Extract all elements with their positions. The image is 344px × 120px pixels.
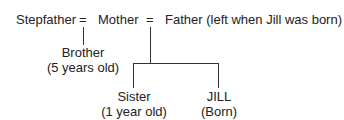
mother-label: Mother — [98, 12, 138, 27]
jill-line — [218, 63, 219, 88]
brother-label: Brother — [62, 45, 105, 60]
stepfather-mother-descent-line — [83, 27, 84, 45]
mother-father-descent-line — [150, 27, 151, 63]
jill-note: (Born) — [201, 104, 237, 119]
marriage-sign-2: = — [146, 12, 154, 27]
stepfather-label: Stepfather — [16, 12, 76, 27]
sister-age: (1 year old) — [101, 104, 167, 119]
sister-line — [133, 63, 134, 88]
jill-label: JILL — [207, 89, 232, 104]
father-label: Father (left when Jill was born) — [165, 12, 342, 27]
brother-age: (5 years old) — [47, 60, 119, 75]
marriage-sign-1: = — [79, 12, 87, 27]
sibling-bar-line — [133, 63, 219, 64]
sister-label: Sister — [117, 89, 150, 104]
